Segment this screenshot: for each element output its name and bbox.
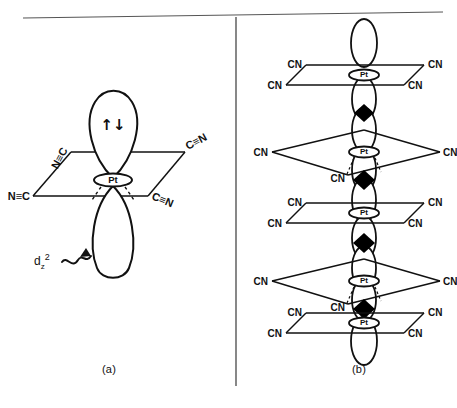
unit-4-ligand-bottom: CN	[331, 302, 345, 313]
electron-pair-label: ↑↓	[100, 116, 125, 134]
unit-2-pt-label: Pt	[360, 147, 368, 156]
panel-b-group: Pt CN CN CN CN Pt CN CN CN	[254, 19, 457, 365]
unit-2-ligand-bottom: CN	[331, 173, 345, 184]
unit-3-ligand-lr: CN	[408, 218, 422, 229]
unit-4-pt-label: Pt	[360, 276, 368, 285]
dz2-upper-lobe	[90, 91, 138, 178]
panel-a-pt-label: Pt	[108, 174, 118, 185]
unit-3-ligand-ll: CN	[268, 218, 282, 229]
panel-a-group: ↑↓ Pt N≡C C≡N N≡C C≡N dz2	[8, 91, 209, 278]
unit-1-ligand-ur: CN	[428, 59, 442, 70]
unit-5-ligand-lr: CN	[408, 328, 422, 339]
panel-a-ligand-lower-right: C≡N	[150, 190, 175, 210]
caption-panel-b: (b)	[352, 363, 366, 375]
figure-container: ↑↓ Pt N≡C C≡N N≡C C≡N dz2	[0, 0, 457, 408]
unit-4-ligand-right: CN	[443, 276, 457, 287]
unit-2-ligand-left: CN	[254, 147, 268, 158]
unit-1-ligand-lr: CN	[408, 80, 422, 91]
unit-2-ligand-right: CN	[443, 147, 457, 158]
unit-3-ligand-ul: CN	[288, 197, 302, 208]
unit-1-pt-label: Pt	[360, 70, 368, 79]
caption-panel-a: (a)	[102, 363, 116, 375]
unit-4-ligand-left: CN	[254, 276, 268, 287]
unit-3-pt-label: Pt	[360, 208, 368, 217]
panel-a-ligand-lower-left: N≡C	[8, 190, 30, 202]
dz2-orbital-label: dz2	[34, 252, 50, 271]
unit-5-pt-label: Pt	[360, 318, 368, 327]
panel-a-ligand-upper-right: C≡N	[183, 131, 208, 152]
dz2-lower-lobe	[93, 186, 134, 278]
unit-5-ligand-ul: CN	[288, 307, 302, 318]
unit-1-ligand-ll: CN	[268, 80, 282, 91]
chemistry-diagram: ↑↓ Pt N≡C C≡N N≡C C≡N dz2	[0, 0, 457, 408]
dz2-pointer-arrow	[62, 248, 91, 264]
unit-3-ligand-ur: CN	[428, 197, 442, 208]
top-rule	[23, 12, 443, 18]
unit-5-ligand-ur: CN	[428, 307, 442, 318]
unit-5-ligand-ll: CN	[268, 328, 282, 339]
unit-1-ligand-ul: CN	[288, 59, 302, 70]
